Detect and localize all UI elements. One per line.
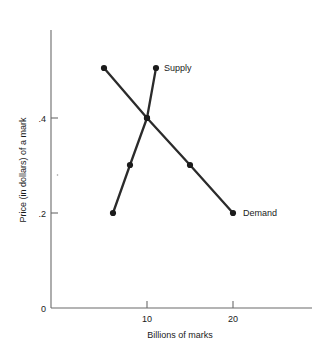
y-tick-label-0: 0: [41, 304, 46, 314]
y-axis-title: Price (in dollars) of a mark: [18, 117, 28, 223]
x-tick-label-10: 10: [142, 314, 152, 324]
supply-marker-2: [127, 162, 133, 168]
demand-marker-3: [187, 162, 193, 168]
y-tick-label-0.4: .4: [38, 114, 46, 124]
series-supply: Supply: [110, 63, 192, 216]
y-tick-label-0.2: .2: [38, 209, 46, 219]
chart-canvas: .4 .2 0 10 20 Billions of marks Price (i…: [0, 0, 322, 351]
demand-series-label: Demand: [243, 208, 277, 218]
x-tick-label-20: 20: [228, 314, 238, 324]
demand-line: [104, 68, 233, 213]
supply-series-label: Supply: [164, 63, 192, 73]
y-tick-group: .4 .2 0: [38, 114, 58, 314]
demand-marker-4: [230, 210, 236, 216]
scan-artifact-dot: [57, 174, 59, 176]
supply-marker-4: [153, 65, 159, 71]
supply-line: [113, 68, 156, 213]
series-demand: Demand: [101, 65, 277, 218]
x-tick-group: 10 20: [142, 301, 238, 324]
supply-demand-chart-figure: .4 .2 0 10 20 Billions of marks Price (i…: [0, 0, 322, 351]
x-axis-title: Billions of marks: [147, 330, 213, 340]
supply-marker-1: [110, 210, 116, 216]
supply-marker-3: [144, 115, 150, 121]
demand-marker-1: [101, 65, 107, 71]
